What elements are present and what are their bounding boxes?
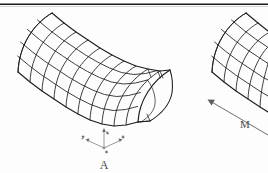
axis-label-z: z xyxy=(107,130,109,135)
axis-label-y: y xyxy=(82,134,84,139)
figure-background xyxy=(0,0,268,173)
axis-origin-label: o xyxy=(106,150,108,154)
figure-canvas: z x y o A M xyxy=(0,0,268,173)
direction-label-m: M xyxy=(240,118,250,130)
axis-label-x: x xyxy=(122,134,124,139)
structure-label-a: A xyxy=(100,158,109,172)
figure-root: z x y o A M xyxy=(0,0,268,173)
